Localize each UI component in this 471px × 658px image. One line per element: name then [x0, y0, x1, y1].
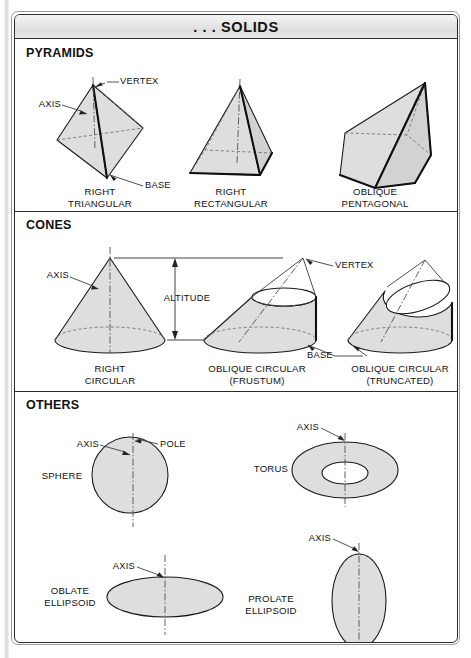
caption-sphere: SPHERE: [42, 470, 83, 482]
figure-right-triangular-pyramid: [57, 77, 143, 186]
label-cone-altitude: ALTITUDE: [164, 293, 210, 304]
pyramids-graphics: [15, 15, 457, 643]
caption-oblique-circular-truncated: OBLIQUE CIRCULAR (TRUNCATED): [351, 363, 449, 386]
label-cone-axis: AXIS: [47, 270, 69, 281]
caption-prolate-ellipsoid: PROLATE ELLIPSOID: [245, 593, 296, 616]
caption-oblate-ellipsoid: OBLATE ELLIPSOID: [44, 585, 95, 608]
label-sphere-pole: POLE: [160, 439, 186, 450]
page-edge-shadow: [0, 0, 9, 658]
section-divider-others: [15, 391, 457, 392]
caption-right-rectangular-pyramid: RIGHT RECTANGULAR: [194, 186, 268, 209]
label-cone-vertex: VERTEX: [335, 260, 374, 271]
label-cone-base: BASE: [307, 350, 333, 361]
caption-right-triangular-pyramid: RIGHT TRIANGULAR: [68, 186, 132, 209]
figure-oblique-circular-truncated: [348, 260, 454, 353]
figure-torus: [292, 428, 398, 507]
caption-oblique-pentagonal-pyramid: OBLIQUE PENTAGONAL: [342, 186, 409, 209]
figure-oblique-pentagonal-pyramid: [340, 83, 431, 188]
caption-oblique-circular-frustum: OBLIQUE CIRCULAR (FRUSTUM): [208, 363, 306, 386]
section-title-cones: CONES: [26, 218, 71, 232]
section-title-others: OTHERS: [26, 398, 79, 412]
figure-oblique-circular-frustum: [204, 258, 316, 353]
caption-right-circular-cone: RIGHT CIRCULAR: [85, 363, 136, 386]
label-pyramid-axis: AXIS: [39, 99, 61, 110]
figure-right-circular-cone: [55, 247, 165, 353]
diagram-frame-inner: . . . SOLIDS PYRAMIDS: [14, 14, 458, 643]
label-pyramid-base: BASE: [145, 180, 171, 191]
label-torus-axis: AXIS: [297, 422, 319, 433]
label-oblate-axis: AXIS: [113, 561, 135, 572]
figure-sphere: [92, 433, 168, 527]
caption-torus: TORUS: [254, 463, 288, 475]
label-pyramid-vertex: VERTEX: [120, 76, 159, 87]
section-divider-cones: [15, 211, 457, 212]
page-root: . . . SOLIDS PYRAMIDS: [0, 0, 471, 658]
label-prolate-axis: AXIS: [309, 533, 331, 544]
figure-prolate-ellipsoid: [332, 539, 386, 643]
label-sphere-axis: AXIS: [77, 439, 99, 450]
figure-right-rectangular-pyramid: [190, 79, 272, 175]
